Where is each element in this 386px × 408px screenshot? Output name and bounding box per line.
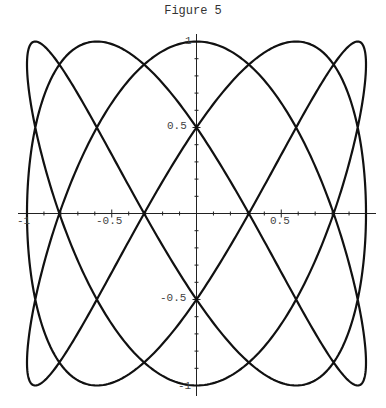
lissajous-plot <box>0 0 386 408</box>
y-tick-label-neg05: -0.5 <box>160 292 186 304</box>
x-tick-label-05: 0.5 <box>270 215 290 227</box>
y-tick-label-neg1: -1 <box>178 380 191 392</box>
x-tick-label-neg1: -1 <box>17 215 30 227</box>
y-tick-label-05: 0.5 <box>167 120 187 132</box>
x-tick-label-neg05: -0.5 <box>96 215 122 227</box>
y-tick-label-1: 1 <box>185 35 192 47</box>
